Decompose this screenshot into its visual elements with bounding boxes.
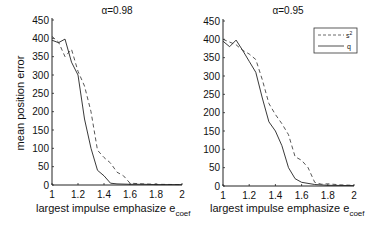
y-ticks: 050100150200250300350400450 [203, 16, 225, 192]
x-tick-label: 2 [179, 189, 185, 200]
x-tick-label: 1.2 [71, 189, 85, 200]
y-tick-label: 350 [32, 51, 49, 62]
plot-lines [52, 37, 182, 185]
x-axis-label: largest impulse emphasize ecoef [36, 202, 191, 218]
x-tick-label: 1.2 [242, 190, 256, 201]
chart-title: α=0.95 [272, 5, 304, 16]
x-tick-label: 1.4 [268, 190, 282, 201]
y-tick-label: 200 [32, 106, 49, 117]
y-tick-label: 100 [32, 143, 49, 154]
x-tick-label: 1.8 [321, 190, 335, 201]
y-tick-label: 250 [203, 89, 220, 100]
y-tick-label: 50 [209, 162, 221, 173]
series-s2-line [52, 37, 182, 185]
plot-lines [223, 39, 354, 185]
series-s2-line [223, 39, 354, 185]
figure-canvas: mean position error α=0.98 0501001502002… [0, 0, 379, 231]
y-tick-label: 50 [38, 161, 50, 172]
y-axis-label: mean position error [14, 55, 26, 150]
x-tick-label: 2 [351, 190, 357, 201]
chart-alpha-095: α=0.95 050100150200250300350400450 11.21… [203, 5, 365, 218]
x-tick-label: 1.4 [97, 189, 111, 200]
y-tick-label: 450 [203, 16, 220, 27]
y-tick-label: 350 [203, 52, 220, 63]
y-ticks: 050100150200250300350400450 [32, 15, 54, 191]
y-tick-label: 400 [203, 34, 220, 45]
y-tick-label: 250 [32, 88, 49, 99]
legend: s2 q [314, 28, 357, 53]
chart-title: α=0.98 [101, 5, 133, 16]
y-tick-label: 300 [32, 70, 49, 81]
figure: mean position error α=0.98 0501001502002… [0, 0, 379, 231]
y-tick-label: 300 [203, 71, 220, 82]
series-q-line [223, 40, 354, 186]
series-q-line [52, 39, 182, 185]
x-tick-label: 1.8 [149, 189, 163, 200]
y-tick-label: 150 [32, 125, 49, 136]
x-tick-label: 1.6 [123, 189, 137, 200]
chart-alpha-098: α=0.98 050100150200250300350400450 11.21… [32, 5, 191, 218]
y-tick-label: 450 [32, 15, 49, 26]
x-tick-label: 1 [49, 189, 55, 200]
x-ticks: 11.21.41.61.82 [49, 183, 185, 200]
x-tick-label: 1.6 [295, 190, 309, 201]
x-tick-label: 1 [220, 190, 226, 201]
y-tick-label: 400 [32, 33, 49, 44]
legend-label-q: q [347, 43, 351, 51]
x-axis-label: largest impulse emphasize ecoef [210, 202, 365, 218]
y-tick-label: 200 [203, 107, 220, 118]
y-tick-label: 150 [203, 126, 220, 137]
x-ticks: 11.21.41.61.82 [220, 184, 357, 201]
y-tick-label: 100 [203, 144, 220, 155]
